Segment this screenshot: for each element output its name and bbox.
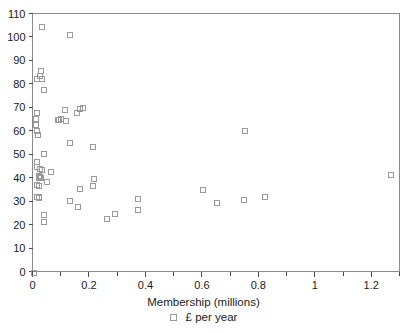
- data-point-marker: [41, 87, 46, 92]
- data-point-marker: [242, 128, 247, 133]
- chart-legend: £ per year: [0, 311, 407, 323]
- data-point-marker: [67, 140, 72, 145]
- data-point-marker: [67, 198, 72, 203]
- y-axis-tick-label: 60: [13, 125, 25, 137]
- data-point-marker: [62, 107, 67, 112]
- data-point-marker: [48, 169, 53, 174]
- data-point-marker: [388, 172, 393, 177]
- y-axis-tick-label: 0: [19, 266, 25, 278]
- y-axis-tick-label: 80: [13, 78, 25, 90]
- y-axis-tick-label: 90: [13, 54, 25, 66]
- x-axis-tick-label: 0.8: [251, 279, 266, 291]
- x-axis-tick-label: 0: [29, 279, 35, 291]
- data-point-marker: [31, 270, 36, 275]
- data-point-marker: [44, 179, 49, 184]
- data-point-marker: [91, 176, 96, 181]
- x-axis-tick-label: 1: [312, 279, 318, 291]
- data-point-marker: [200, 187, 205, 192]
- data-point-marker: [90, 144, 95, 149]
- data-point-marker: [75, 204, 80, 209]
- data-point-marker: [38, 68, 43, 73]
- x-axis-tick-label: 0.6: [194, 279, 209, 291]
- x-axis-title: Membership (millions): [0, 296, 407, 308]
- y-axis-tick-label: 70: [13, 101, 25, 113]
- data-point-marker: [90, 183, 95, 188]
- legend-marker-icon: [170, 314, 177, 321]
- data-point-marker: [33, 116, 38, 121]
- data-point-marker: [135, 207, 140, 212]
- legend-label: £ per year: [186, 311, 238, 323]
- data-point-marker: [34, 110, 39, 115]
- y-axis-tick-label: 40: [13, 172, 25, 184]
- data-point-marker: [214, 200, 219, 205]
- data-point-marker: [67, 32, 72, 37]
- data-point-marker: [112, 211, 117, 216]
- x-axis-tick-label: 0.4: [138, 279, 153, 291]
- data-point-marker: [41, 212, 46, 217]
- data-point-marker: [39, 24, 44, 29]
- x-axis-tick-label: 1.2: [364, 279, 379, 291]
- data-point-marker: [241, 197, 246, 202]
- data-point-marker: [135, 196, 140, 201]
- data-point-marker: [262, 194, 267, 199]
- scatter-plot-figure: 010203040506070809010011000.20.40.60.811…: [0, 0, 407, 333]
- data-point-marker: [41, 151, 46, 156]
- data-point-marker: [104, 216, 109, 221]
- y-axis-tick-label: 110: [8, 8, 26, 20]
- data-point-marker: [63, 118, 68, 123]
- y-axis-tick-label: 30: [13, 195, 25, 207]
- y-axis-tick-label: 50: [13, 148, 25, 160]
- chart-canvas: 010203040506070809010011000.20.40.60.811…: [0, 0, 407, 333]
- data-point-marker: [33, 122, 38, 127]
- y-axis-tick-label: 100: [7, 31, 25, 43]
- data-point-marker: [34, 159, 39, 164]
- data-point-marker: [77, 186, 82, 191]
- data-point-marker: [41, 219, 46, 224]
- x-axis-tick-label: 0.2: [81, 279, 96, 291]
- y-axis-tick-label: 20: [13, 219, 25, 231]
- y-axis-tick-label: 10: [13, 242, 25, 254]
